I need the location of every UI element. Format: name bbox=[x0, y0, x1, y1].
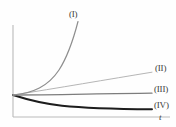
curve-label-iii: (III) bbox=[154, 85, 168, 94]
curve-iii bbox=[13, 93, 152, 95]
curve-ii bbox=[13, 72, 152, 95]
curve-iv bbox=[13, 95, 152, 109]
figure-canvas: (I) (II) (III) (IV) t bbox=[0, 0, 176, 127]
curve-label-i: (I) bbox=[69, 10, 77, 19]
curve-label-iv: (IV) bbox=[154, 101, 169, 110]
curve-i bbox=[13, 22, 78, 96]
curve-label-ii: (II) bbox=[155, 64, 166, 73]
plot-area bbox=[0, 0, 176, 127]
x-axis-label: t bbox=[159, 113, 162, 122]
